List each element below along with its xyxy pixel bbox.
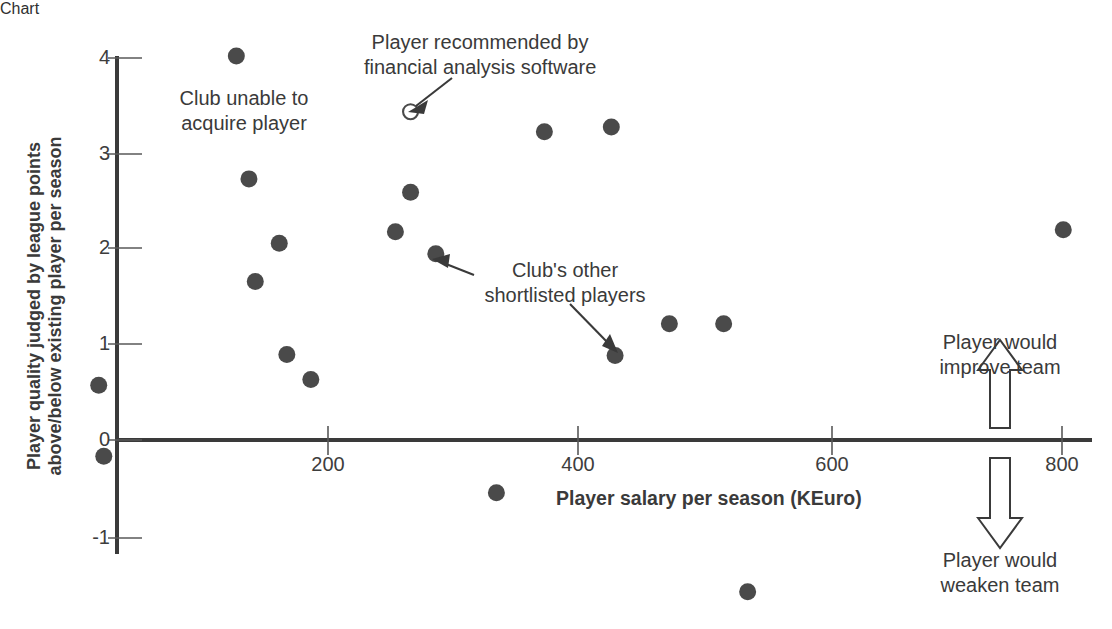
data-point (739, 583, 756, 600)
data-point (603, 119, 620, 136)
data-point (1055, 221, 1072, 238)
annotation-recommended-line1: Player recommended by (372, 31, 589, 53)
y-tick-label-1: 1 (88, 331, 110, 356)
data-point (536, 123, 553, 140)
annotation-recommended: Player recommended byfinancial analysis … (364, 30, 596, 80)
y-axis-title: Player quality judged by league pointsab… (24, 56, 66, 556)
y-tick-label-4: 4 (88, 45, 110, 70)
annotation-club-unable-line2: acquire player (181, 112, 307, 134)
data-point (228, 48, 245, 65)
x-axis-title: Player salary per season (KEuro) (556, 486, 862, 511)
block-arrow-down (978, 458, 1022, 548)
y-axis-title-line2: above/below existing player per season (45, 136, 65, 475)
annotation-recommended-line2: financial analysis software (364, 56, 596, 78)
y-tick-label-3: 3 (88, 141, 110, 166)
annotation-shortlisted: Club's othershortlisted players (468, 258, 662, 308)
data-point (402, 184, 419, 201)
data-point (661, 315, 678, 332)
data-point (240, 170, 257, 187)
data-point (488, 484, 505, 501)
y-axis-title-line1: Player quality judged by league points (24, 142, 44, 470)
annotation-improve-team: Player wouldimprove team (922, 330, 1078, 380)
data-point (387, 223, 404, 240)
x-tick-label-400: 400 (550, 452, 606, 477)
annotation-shortlisted-line1: Club's other (512, 259, 618, 281)
x-tick-label-200: 200 (300, 452, 356, 477)
data-point (90, 377, 107, 394)
scatter-chart: 4 3 2 1 0 -1 200 400 600 800 Player sala… (0, 0, 1112, 629)
annotation-club-unable: Club unable toacquire player (164, 86, 324, 136)
y-tick-label-2: 2 (88, 235, 110, 260)
y-tick-label-neg1: -1 (78, 525, 110, 550)
data-point (278, 346, 295, 363)
data-point (302, 371, 319, 388)
y-tick-label-0: 0 (88, 427, 110, 452)
data-point (271, 235, 288, 252)
x-tick-label-800: 800 (1034, 452, 1090, 477)
annotation-weaken-team-line2: weaken team (941, 574, 1060, 596)
annotation-arrow-recommended (408, 78, 452, 114)
annotation-weaken-team-line1: Player would (943, 549, 1058, 571)
annotation-weaken-team: Player wouldweaken team (922, 548, 1078, 598)
annotation-arrow-shortlisted-lower (570, 304, 618, 353)
annotation-improve-team-line1: Player would (943, 331, 1058, 353)
annotation-club-unable-line1: Club unable to (180, 87, 309, 109)
data-point (247, 273, 264, 290)
annotation-improve-team-line2: improve team (939, 356, 1060, 378)
data-point (715, 315, 732, 332)
annotation-shortlisted-line2: shortlisted players (484, 284, 645, 306)
x-tick-label-600: 600 (804, 452, 860, 477)
